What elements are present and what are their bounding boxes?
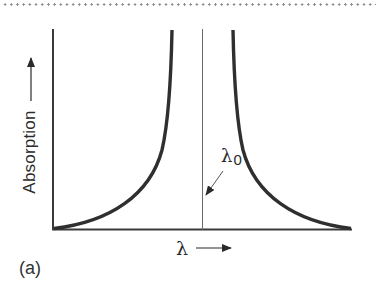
x-axis-label: λ — [176, 237, 188, 259]
lambda0-subscript: 0 — [233, 151, 241, 168]
left-absorption-curve — [54, 30, 172, 229]
absorption-diagram — [0, 0, 377, 294]
lambda0-pointer-arrow — [206, 171, 223, 195]
panel-label: (a) — [19, 258, 41, 279]
right-absorption-curve — [233, 30, 351, 229]
lambda0-label: λ0 — [221, 145, 241, 166]
y-axis-label: Absorption — [20, 110, 40, 193]
lambda0-symbol: λ — [221, 145, 232, 166]
